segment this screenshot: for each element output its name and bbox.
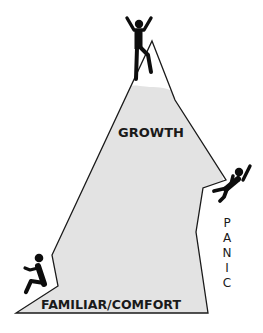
panic-letter: P	[223, 216, 230, 230]
panic-label: P A N I C	[223, 216, 232, 290]
growth-label: GROWTH	[118, 125, 184, 140]
comfort-zone-diagram: GROWTH FAMILIAR/COMFORT P A N I C	[0, 0, 263, 333]
panic-letter: C	[223, 276, 231, 290]
panic-letter: I	[225, 261, 229, 275]
panic-letter: A	[223, 231, 232, 245]
panic-letter: N	[223, 246, 232, 260]
seated-climber-icon	[25, 254, 44, 292]
mountain-fill	[0, 86, 260, 320]
comfort-label: FAMILIAR/COMFORT	[41, 298, 182, 312]
